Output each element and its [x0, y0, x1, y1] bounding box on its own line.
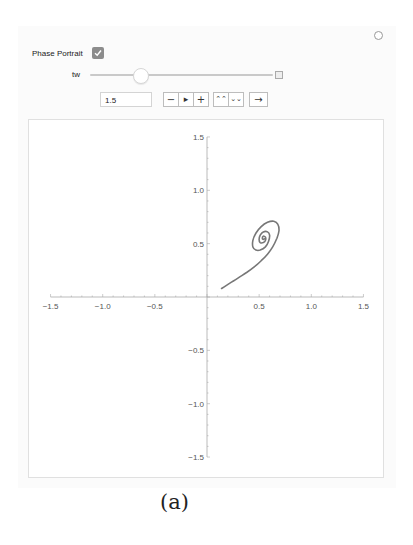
svg-text:−0.5: −0.5: [147, 302, 163, 311]
trajectory-curve: [222, 221, 279, 288]
svg-text:1.5: 1.5: [358, 302, 370, 311]
svg-text:−1.5: −1.5: [188, 453, 204, 462]
svg-text:−1.5: −1.5: [43, 302, 59, 311]
svg-text:−1.0: −1.0: [95, 302, 111, 311]
svg-text:1.5: 1.5: [193, 133, 205, 142]
svg-text:−0.5: −0.5: [188, 346, 204, 355]
svg-text:0.5: 0.5: [254, 302, 266, 311]
svg-text:1.0: 1.0: [306, 302, 318, 311]
svg-text:−1.0: −1.0: [188, 400, 204, 409]
phase-portrait-plot: −1.5−1.0−0.50.51.01.51.51.00.5−0.5−1.0−1…: [0, 0, 413, 545]
svg-text:1.0: 1.0: [193, 186, 205, 195]
plot-axes: −1.5−1.0−0.50.51.01.51.51.00.5−0.5−1.0−1…: [43, 133, 370, 462]
figure-caption: (a): [160, 490, 189, 514]
svg-text:0.5: 0.5: [193, 240, 205, 249]
